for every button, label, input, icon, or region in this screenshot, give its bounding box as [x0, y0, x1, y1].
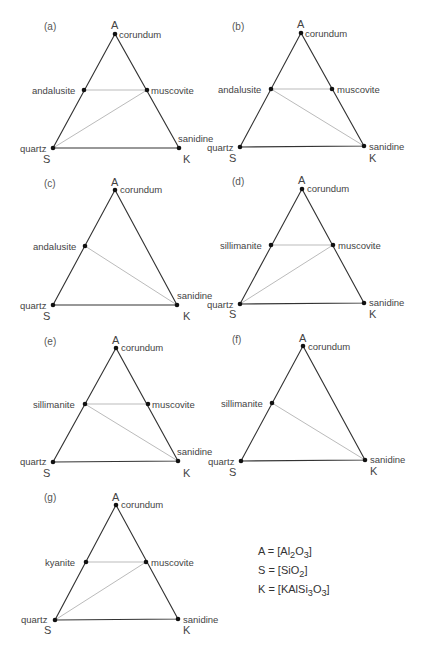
point-sanidine [176, 617, 181, 622]
label-muscovite: muscovite [337, 84, 380, 95]
vertex-K: K [183, 153, 191, 165]
panel-label: (a) [44, 21, 56, 32]
panel-d: (d) A corundum sillimanite muscovite qua… [207, 174, 404, 320]
tie-line [85, 246, 177, 305]
vertex-S: S [43, 310, 50, 322]
vertex-S: S [229, 308, 236, 320]
point-quartz [51, 146, 56, 151]
point-andalusite [269, 87, 274, 92]
vertex-A: A [297, 18, 305, 30]
vertex-K: K [369, 152, 377, 164]
label-muscovite: muscovite [152, 399, 195, 410]
label-corundum: corundum [308, 341, 350, 352]
point-muscovite [331, 243, 336, 248]
vertex-K: K [183, 310, 191, 322]
panel-g: (g) A corundum kyanite muscovite quartz … [21, 491, 218, 636]
legend-S: S = [SiO2] [258, 563, 330, 582]
panel-a: (a) A corundum andalusite muscovite quar… [20, 19, 213, 165]
panel-f: (f) A corundum sillimanite quartz sanidi… [208, 332, 405, 478]
legend-A: A = [Al2O3] [258, 544, 330, 563]
point-sanidine [176, 459, 181, 464]
point-muscovite [145, 88, 150, 93]
label-andalusite: andalusite [32, 85, 75, 96]
point-quartz [51, 460, 56, 465]
point-sanidine [175, 303, 180, 308]
legend: A = [Al2O3] S = [SiO2] K = [KAlSi3O3] [258, 544, 330, 602]
tie-line [271, 89, 364, 146]
point-andalusite [83, 244, 88, 249]
vertex-K: K [183, 467, 191, 479]
point-quartz [238, 302, 243, 307]
panel-c: (c) A corundum andalusite quartz sanidin… [20, 176, 212, 322]
panel-label: (c) [44, 178, 56, 189]
point-corundum [114, 346, 119, 351]
tie-line [53, 90, 147, 148]
point-corundum [113, 188, 118, 193]
tie-line [85, 404, 178, 461]
label-sillimanite: sillimanite [221, 398, 263, 409]
point-muscovite [146, 402, 151, 407]
vertex-A: A [299, 332, 307, 344]
vertex-A: A [298, 174, 306, 186]
point-sanidine [362, 144, 367, 149]
panel-label: (g) [44, 492, 56, 503]
point-corundum [113, 32, 118, 37]
label-muscovite: muscovite [151, 557, 194, 568]
label-sillimanite: sillimanite [220, 240, 262, 251]
tie-line [240, 245, 333, 304]
point-quartz [51, 303, 56, 308]
panel-e: (e) A corundum sillimanite muscovite qua… [20, 334, 212, 479]
panel-label: (e) [44, 336, 56, 347]
point-sanidine [177, 146, 182, 151]
panel-label: (b) [232, 21, 244, 32]
vertex-K: K [183, 624, 191, 636]
point-sillimanite [269, 243, 274, 248]
point-sillimanite [270, 401, 275, 406]
label-kyanite: kyanite [45, 557, 75, 568]
label-sanidine: sanidine [369, 297, 404, 308]
point-muscovite [330, 87, 335, 92]
vertex-A: A [111, 19, 119, 31]
label-corundum: corundum [121, 342, 163, 353]
vertex-S: S [44, 624, 51, 636]
label-corundum: corundum [120, 184, 162, 195]
label-corundum: corundum [305, 28, 347, 39]
label-quartz: quartz [20, 456, 47, 467]
legend-K: K = [KAlSi3O3] [258, 582, 330, 601]
vertex-A: A [111, 176, 119, 188]
panel-label: (d) [232, 176, 244, 187]
point-quartz [238, 145, 243, 150]
label-sanidine: sanidine [369, 141, 404, 152]
point-andalusite [82, 88, 87, 93]
label-corundum: corundum [307, 183, 349, 194]
label-corundum: corundum [119, 29, 161, 40]
vertex-S: S [43, 467, 50, 479]
point-sanidine [363, 458, 368, 463]
point-quartz [53, 618, 58, 623]
tie-line [272, 403, 365, 460]
label-sanidine: sanidine [370, 454, 405, 465]
vertex-S: S [229, 466, 236, 478]
label-muscovite: muscovite [338, 240, 381, 251]
point-sillimanite [83, 402, 88, 407]
vertex-A: A [112, 334, 120, 346]
vertex-K: K [369, 308, 377, 320]
label-andalusite: andalusite [33, 241, 76, 252]
vertex-S: S [43, 153, 50, 165]
label-andalusite: andalusite [218, 84, 261, 95]
ternary-diagrams: (a) A corundum andalusite muscovite quar… [0, 0, 430, 650]
panel-b: (b) A corundum andalusite muscovite quar… [207, 18, 404, 164]
point-kyanite [84, 560, 89, 565]
panel-label: (f) [232, 334, 241, 345]
point-sanidine [362, 301, 367, 306]
point-corundum [300, 187, 305, 192]
point-corundum [301, 344, 306, 349]
label-muscovite: muscovite [151, 85, 194, 96]
point-corundum [299, 31, 304, 36]
point-muscovite [144, 560, 149, 565]
label-corundum: corundum [121, 499, 163, 510]
point-quartz [239, 459, 244, 464]
vertex-S: S [229, 152, 236, 164]
label-sillimanite: sillimanite [33, 399, 75, 410]
point-corundum [114, 503, 119, 508]
